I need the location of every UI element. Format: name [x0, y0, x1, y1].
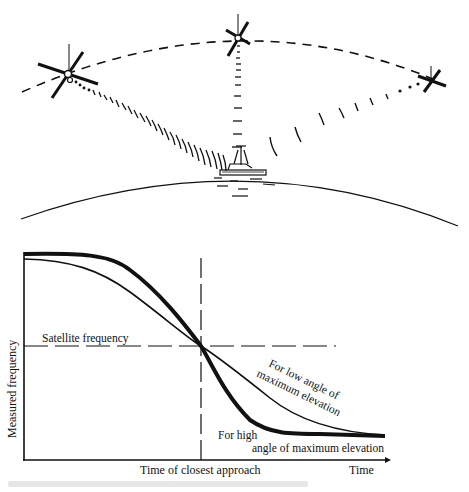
satellite-frequency-label: Satellite frequency — [42, 332, 129, 345]
y-axis-label: Measured frequency — [5, 340, 19, 438]
ship-icon — [214, 146, 275, 196]
earth-surface-arc — [21, 181, 458, 226]
satellite-pass-illustration — [21, 14, 458, 226]
satellite-icon-receding — [418, 66, 446, 92]
satellite-icon-overhead — [226, 14, 250, 56]
x-axis-end-label: Time — [349, 463, 374, 477]
x-axis-arrowhead — [385, 457, 391, 463]
signal-wavefronts-overhead — [232, 46, 242, 147]
high-elevation-label-line1: For high — [218, 429, 258, 442]
signal-wavefronts-approaching — [75, 81, 226, 171]
frequency-vs-time-chart: Satellite frequency Measured frequency T… — [5, 252, 391, 477]
high-elevation-label-line2: angle of maximum elevation — [252, 442, 384, 455]
figure-caption-faded — [8, 481, 308, 487]
x-axis-center-label: Time of closest approach — [140, 463, 261, 477]
signal-wavefronts-receding — [270, 83, 419, 156]
doppler-satellite-diagram: Satellite frequency Measured frequency T… — [0, 0, 469, 492]
